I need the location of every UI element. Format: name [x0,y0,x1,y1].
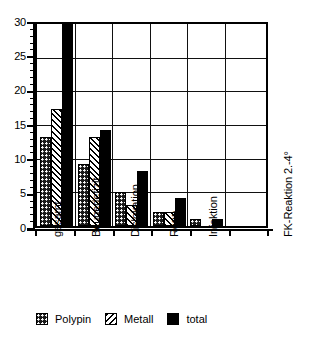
y-minor-tick-13 [30,139,34,140]
y-minor-tick-19 [30,98,34,99]
y-minor-tick-28 [30,36,34,37]
x-tick-3 [151,229,153,236]
legend-entry-total: total [167,313,221,325]
y-tick-20 [27,91,34,93]
y-axis-label-10: 10 [2,154,26,165]
y-minor-tick-27 [30,43,34,44]
y-tick-30 [27,22,34,24]
y-axis-label-0: 0 [2,223,26,234]
bar-beugedefizit-polypin [78,164,89,226]
y-minor-tick-23 [30,70,34,71]
y-tick-15 [27,125,34,127]
y-minor-tick-24 [30,63,34,64]
y-axis-label-20: 20 [2,85,26,96]
y-minor-tick-17 [30,111,34,112]
x-tick-5 [229,229,231,236]
x-axis-label-dislokation: Dislokation [130,184,141,237]
y-minor-tick-16 [30,118,34,119]
x-tick-6 [267,229,269,236]
bar-gesamt-polypin [40,137,51,226]
y-minor-tick-14 [30,132,34,133]
gridline-vertical-2 [112,24,113,226]
y-minor-tick-22 [30,77,34,78]
legend-label-metall: Metall [124,314,153,325]
y-minor-tick-21 [30,84,34,85]
bar-gesamt-total [62,22,73,226]
bar-dislokation-polypin [115,192,126,226]
y-axis-labels: 30 25 20 15 10 5 0 [0,0,26,337]
x-axis-line [27,229,273,231]
dotted-swatch-icon [36,313,48,325]
bar-reop-polypin [153,212,164,226]
y-tick-25 [27,56,34,58]
x-axis-label-fk-reaktion: FK-Reaktion 2.-4° [283,151,294,237]
y-minor-tick-12 [30,146,34,147]
hatch-swatch-icon [105,313,117,325]
y-minor-tick-8 [30,173,34,174]
y-tick-10 [27,159,34,161]
bar-infektion-polypin [190,219,201,227]
legend-entry-polypin: Polypin [36,313,105,325]
y-axis-label-15: 15 [2,120,26,131]
y-minor-tick-3 [30,207,34,208]
y-minor-tick-11 [30,152,34,153]
solid-swatch-icon [167,313,179,325]
plot-area [35,22,268,228]
y-minor-tick-26 [30,49,34,50]
x-tick-1 [74,229,76,236]
gridline-vertical-3 [150,24,151,226]
gridline-vertical-5 [225,24,226,226]
y-minor-tick-7 [30,180,34,181]
gridline-vertical-1 [75,24,76,226]
x-axis-label-gesamt: gesamt [52,202,63,237]
x-tick-4 [190,229,192,236]
chart-legend: Polypin Metall total [36,311,221,327]
gridline-vertical-4 [187,24,188,226]
y-minor-tick-2 [30,214,34,215]
y-tick-5 [27,194,34,196]
x-axis-label-infektion: Infektion [208,196,219,237]
x-axis-label-reop: Reop [169,211,180,237]
legend-label-total: total [186,314,207,325]
legend-entry-metall: Metall [105,313,167,325]
y-axis-label-30: 30 [2,17,26,28]
x-axis-label-beugedefizit: Beugedefizit [91,178,102,237]
bar-chart: 30 25 20 15 10 5 0 gesamt Beugedefizit D… [0,0,309,337]
y-minor-tick-9 [30,166,34,167]
y-minor-tick-1 [30,221,34,222]
y-axis-label-5: 5 [2,188,26,199]
legend-label-polypin: Polypin [55,314,91,325]
y-minor-tick-4 [30,201,34,202]
x-tick-2 [113,229,115,236]
y-axis-label-25: 25 [2,51,26,62]
y-minor-tick-29 [30,29,34,30]
x-tick-0 [35,229,37,236]
y-minor-tick-6 [30,187,34,188]
y-minor-tick-18 [30,104,34,105]
